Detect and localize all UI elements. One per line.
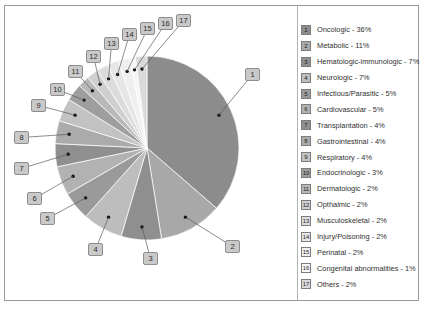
- legend-item[interactable]: 13Musculoskeletal - 2%: [301, 213, 423, 229]
- legend-item[interactable]: 7Transplantation - 4%: [301, 117, 423, 133]
- legend-label: Musculoskeletal - 2%: [317, 216, 387, 225]
- callout-label[interactable]: 9: [31, 99, 46, 112]
- legend-label: Gastrointestinal - 4%: [317, 137, 386, 146]
- callout-label[interactable]: 3: [143, 252, 158, 265]
- legend-swatch: 16: [301, 263, 311, 273]
- legend-item[interactable]: 6Cardiovascular - 5%: [301, 101, 423, 117]
- callout-label[interactable]: 1: [245, 68, 260, 81]
- legend-item[interactable]: 4Neurologic - 7%: [301, 70, 423, 86]
- callout-label[interactable]: 17: [176, 14, 191, 27]
- legend-swatch: 10: [301, 168, 311, 178]
- legend-item[interactable]: 14Injury/Poisoning - 2%: [301, 229, 423, 245]
- callout-label[interactable]: 2: [225, 240, 240, 253]
- legend-label: Endocrinologic - 3%: [317, 168, 383, 177]
- legend-label: Oncologic - 36%: [317, 25, 371, 34]
- legend-swatch: 11: [301, 184, 311, 194]
- legend-swatch: 13: [301, 216, 311, 226]
- legend-item[interactable]: 8Gastrointestinal - 4%: [301, 133, 423, 149]
- callout-label[interactable]: 10: [50, 83, 65, 96]
- legend-label: Opthalmic - 2%: [317, 200, 368, 209]
- legend: 1Oncologic - 36%2Metabolic - 11%3Hematol…: [301, 22, 423, 292]
- legend-item[interactable]: 16Congenital abnormalities - 1%: [301, 260, 423, 276]
- legend-item[interactable]: 2Metabolic - 11%: [301, 38, 423, 54]
- callout-label[interactable]: 15: [140, 22, 155, 35]
- legend-label: Perinatal - 2%: [317, 248, 363, 257]
- legend-swatch: 12: [301, 200, 311, 210]
- legend-swatch: 4: [301, 73, 311, 83]
- legend-swatch: 8: [301, 136, 311, 146]
- legend-item[interactable]: 12Opthalmic - 2%: [301, 197, 423, 213]
- legend-label: Transplantation - 4%: [317, 121, 385, 130]
- callout-label[interactable]: 6: [27, 192, 42, 205]
- legend-item[interactable]: 17Others - 2%: [301, 276, 423, 292]
- callout-label[interactable]: 13: [104, 37, 119, 50]
- callout-anchor-dot: [82, 98, 85, 101]
- legend-label: Others - 2%: [317, 280, 356, 289]
- legend-item[interactable]: 5Infectious/Parasitic - 5%: [301, 86, 423, 102]
- callout-label[interactable]: 5: [40, 212, 55, 225]
- legend-swatch: 1: [301, 25, 311, 35]
- legend-swatch: 2: [301, 41, 311, 51]
- callout-label[interactable]: 14: [122, 28, 137, 41]
- legend-label: Neurologic - 7%: [317, 73, 370, 82]
- callout-label[interactable]: 11: [68, 65, 83, 78]
- callout-label[interactable]: 12: [86, 50, 101, 63]
- legend-item[interactable]: 1Oncologic - 36%: [301, 22, 423, 38]
- legend-swatch: 14: [301, 232, 311, 242]
- pie-chart: 1234567891011121314151617: [0, 0, 297, 312]
- legend-label: Congenital abnormalities - 1%: [317, 264, 416, 273]
- legend-swatch: 7: [301, 120, 311, 130]
- legend-label: Injury/Poisoning - 2%: [317, 232, 387, 241]
- legend-swatch: 5: [301, 89, 311, 99]
- legend-item[interactable]: 11Dermatologic - 2%: [301, 181, 423, 197]
- legend-swatch: 6: [301, 104, 311, 114]
- pie-slices: [55, 56, 239, 240]
- legend-item[interactable]: 9Respiratory - 4%: [301, 149, 423, 165]
- legend-label: Respiratory - 4%: [317, 153, 372, 162]
- legend-label: Cardiovascular - 5%: [317, 105, 384, 114]
- legend-swatch: 15: [301, 247, 311, 257]
- callout-label[interactable]: 4: [88, 243, 103, 256]
- legend-swatch: 17: [301, 279, 311, 289]
- pie-svg: [0, 0, 297, 312]
- legend-item[interactable]: 3Hematologic-immunologic - 7%: [301, 54, 423, 70]
- legend-item[interactable]: 10Endocrinologic - 3%: [301, 165, 423, 181]
- legend-swatch: 9: [301, 152, 311, 162]
- legend-label: Dermatologic - 2%: [317, 184, 378, 193]
- callout-label[interactable]: 8: [14, 131, 29, 144]
- legend-label: Infectious/Parasitic - 5%: [317, 89, 396, 98]
- legend-swatch: 3: [301, 57, 311, 67]
- legend-label: Hematologic-immunologic - 7%: [317, 57, 419, 66]
- panel-divider: [297, 6, 298, 300]
- legend-item[interactable]: 15Perinatal - 2%: [301, 244, 423, 260]
- callout-label[interactable]: 7: [14, 162, 29, 175]
- callout-label[interactable]: 16: [158, 17, 173, 30]
- legend-label: Metabolic - 11%: [317, 41, 369, 50]
